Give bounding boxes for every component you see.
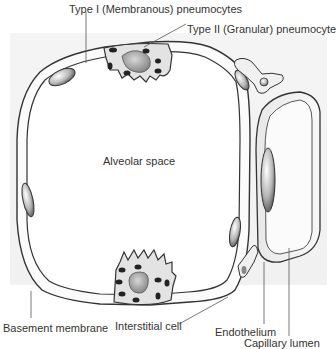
label-type2-pneumocyte: Type II (Granular) pneumocyte bbox=[187, 23, 336, 35]
label-capillary-lumen: Capillary lumen bbox=[244, 337, 320, 349]
capillary bbox=[256, 92, 320, 262]
label-alveolar-space: Alveolar space bbox=[103, 155, 175, 167]
label-type1-pneumocytes: Type I (Membranous) pneumocytes bbox=[69, 3, 242, 15]
label-interstitial-cell: Interstitial cell bbox=[115, 320, 182, 332]
endothelial-nucleus bbox=[261, 148, 275, 212]
label-basement-membrane: Basement membrane bbox=[3, 322, 108, 334]
